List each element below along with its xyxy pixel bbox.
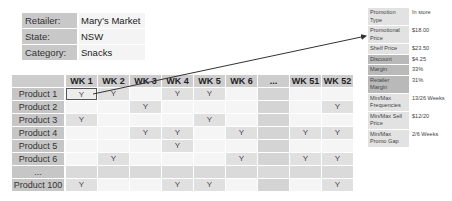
grid-cell[interactable]	[258, 127, 289, 139]
grid-cell[interactable]	[162, 153, 193, 165]
grid-cell[interactable]: Y	[130, 101, 161, 113]
grid-cell[interactable]: Y	[162, 179, 193, 191]
grid-cell[interactable]	[226, 179, 257, 191]
grid-cell[interactable]	[162, 101, 193, 113]
grid-header-row: WK 1WK 2WK 3WK 4WK 5WK 6...WK 51WK 52	[12, 75, 354, 87]
detail-value: $23.50	[409, 44, 448, 54]
grid-cell[interactable]	[258, 101, 289, 113]
grid-cell[interactable]	[130, 114, 161, 126]
grid-row: Product 6YYYY	[12, 153, 354, 165]
row-label: Product 3	[12, 114, 64, 126]
grid-cell[interactable]: Y	[194, 114, 225, 126]
grid-cell[interactable]	[226, 140, 257, 152]
grid-cell[interactable]	[290, 179, 321, 191]
grid-cell[interactable]: Y	[130, 127, 161, 139]
grid-cell[interactable]: Y	[322, 179, 353, 191]
info-row-retailer: Retailer: Mary’s Market	[22, 13, 145, 28]
grid-cell[interactable]: Y	[162, 127, 193, 139]
grid-cell[interactable]	[226, 114, 257, 126]
column-header: ...	[258, 75, 289, 87]
column-header: WK 2	[98, 75, 129, 87]
detail-row: Promotional Price$18.00	[368, 26, 448, 43]
grid-row: Product 4YYYYY	[12, 127, 354, 139]
grid-cell[interactable]	[66, 153, 97, 165]
grid-cell[interactable]	[66, 166, 97, 178]
grid-cell[interactable]	[194, 166, 225, 178]
detail-label: Retailer Margin	[368, 76, 409, 93]
grid-cell[interactable]	[98, 101, 129, 113]
grid-cell[interactable]	[130, 179, 161, 191]
detail-row: Retailer Margin31%	[368, 76, 448, 93]
grid-cell[interactable]	[258, 114, 289, 126]
grid-cell[interactable]: Y	[98, 88, 129, 100]
grid-cell[interactable]: Y	[162, 88, 193, 100]
grid-cell[interactable]: Y	[322, 153, 353, 165]
grid-cell[interactable]: Y	[162, 140, 193, 152]
grid-cell[interactable]	[194, 101, 225, 113]
grid-cell[interactable]	[226, 166, 257, 178]
grid-cell[interactable]: Y	[226, 153, 257, 165]
grid-cell[interactable]	[98, 127, 129, 139]
detail-row: Min/Max Frequencies13/26 Weeks	[368, 94, 448, 111]
grid-cell[interactable]	[98, 140, 129, 152]
detail-value: 2/6 Weeks	[409, 130, 448, 147]
grid-cell[interactable]	[194, 127, 225, 139]
row-label: Product 2	[12, 101, 64, 113]
grid-cell[interactable]: Y	[290, 127, 321, 139]
grid-cell[interactable]	[130, 153, 161, 165]
grid-cell[interactable]	[98, 179, 129, 191]
detail-label: Margin	[368, 65, 409, 75]
grid-cell[interactable]	[66, 101, 97, 113]
grid-cell[interactable]	[162, 114, 193, 126]
grid-cell[interactable]	[226, 88, 257, 100]
grid-cell[interactable]	[130, 88, 161, 100]
grid-cell[interactable]	[258, 140, 289, 152]
grid-corner	[12, 75, 64, 87]
grid-cell[interactable]: Y	[194, 179, 225, 191]
grid-cell[interactable]	[162, 166, 193, 178]
grid-row: Product 3YY	[12, 114, 354, 126]
grid-cell[interactable]	[194, 140, 225, 152]
state-label: State:	[22, 29, 77, 44]
grid-cell[interactable]	[290, 114, 321, 126]
grid-cell[interactable]: Y	[322, 101, 353, 113]
detail-label: Min/Max Promo Gap	[368, 130, 409, 147]
row-label: Product 100	[12, 179, 64, 191]
grid-cell[interactable]: Y	[194, 88, 225, 100]
promotion-details-panel: Promotion TypeIn storePromotional Price$…	[368, 8, 448, 148]
grid-cell[interactable]	[258, 88, 289, 100]
grid-cell[interactable]	[322, 88, 353, 100]
column-header: WK 52	[322, 75, 353, 87]
grid-cell[interactable]	[98, 166, 129, 178]
grid-cell[interactable]: Y	[290, 153, 321, 165]
grid-cell[interactable]	[66, 140, 97, 152]
grid-cell[interactable]	[258, 166, 289, 178]
grid-cell[interactable]	[66, 127, 97, 139]
grid-cell[interactable]	[290, 88, 321, 100]
grid-cell[interactable]	[258, 179, 289, 191]
grid-cell[interactable]	[322, 114, 353, 126]
grid-cell[interactable]	[226, 101, 257, 113]
grid-cell[interactable]	[290, 140, 321, 152]
grid-cell[interactable]: Y	[66, 179, 97, 191]
grid-cell[interactable]	[322, 166, 353, 178]
grid-cell[interactable]	[130, 140, 161, 152]
detail-label: Promotional Price	[368, 26, 409, 43]
grid-cell[interactable]: Y	[226, 127, 257, 139]
grid-cell[interactable]	[98, 114, 129, 126]
grid-cell[interactable]	[194, 153, 225, 165]
detail-label: Min/Max Sell Price	[368, 112, 409, 129]
grid-cell[interactable]: Y	[66, 114, 97, 126]
grid-cell[interactable]	[290, 166, 321, 178]
detail-value: 13/26 Weeks	[409, 94, 448, 111]
grid-cell[interactable]: Y	[98, 153, 129, 165]
grid-cell[interactable]	[130, 166, 161, 178]
grid-cell[interactable]	[290, 101, 321, 113]
detail-row: Discount$4.25	[368, 55, 448, 65]
grid-cell[interactable]	[322, 140, 353, 152]
row-label: Product 6	[12, 153, 64, 165]
grid-cell[interactable]: Y	[66, 88, 97, 100]
grid-cell[interactable]	[258, 153, 289, 165]
grid-cell[interactable]: Y	[322, 127, 353, 139]
detail-value: 33%	[409, 65, 448, 75]
